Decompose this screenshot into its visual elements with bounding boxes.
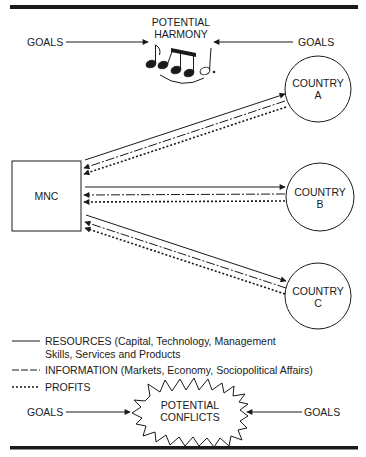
profits-flow-b-to-mnc [84, 201, 285, 202]
music-notes-icon [145, 45, 215, 83]
legend-resources-line2: Skills, Services and Products [45, 348, 276, 361]
goals-right-conflicts-label: GOALS [304, 406, 340, 418]
conflicts-title-line2: CONFLICTS [150, 411, 230, 423]
country-c-line2: C [288, 297, 348, 309]
country-a-line1: COUNTRY [288, 77, 348, 89]
country-c-line1: COUNTRY [288, 285, 348, 297]
profits-flow-a-to-mnc [84, 107, 286, 174]
goals-left-conflicts-label: GOALS [27, 406, 63, 418]
goals-right-harmony-label: GOALS [298, 36, 334, 48]
resources-flow-mnc-to-a [85, 94, 285, 160]
country-b-line1: COUNTRY [290, 186, 350, 198]
legend-information: INFORMATION (Markets, Economy, Sociopoli… [45, 364, 313, 377]
harmony-title-line2: HARMONY [148, 28, 214, 40]
conflicts-title-line1: POTENTIAL [150, 399, 230, 411]
profits-flow-c-to-mnc [85, 228, 285, 294]
legend-resources-line1: RESOURCES (Capital, Technology, Manageme… [45, 335, 276, 348]
country-a-label: COUNTRY A [288, 77, 348, 101]
harmony-title-line1: POTENTIAL [148, 16, 214, 28]
resources-flow-mnc-to-c [86, 215, 286, 281]
conflicts-title: POTENTIAL CONFLICTS [150, 399, 230, 423]
harmony-title: POTENTIAL HARMONY [148, 16, 214, 40]
country-c-label: COUNTRY C [288, 285, 348, 309]
top-rule [10, 5, 358, 9]
information-flow-c-to-mnc [85, 222, 286, 288]
information-flow-a-to-mnc [84, 101, 285, 168]
goals-left-harmony-label: GOALS [27, 36, 63, 48]
legend-profits: PROFITS [45, 381, 91, 394]
country-b-line2: B [290, 198, 350, 210]
country-b-label: COUNTRY B [290, 186, 350, 210]
mnc-label: MNC [12, 190, 81, 202]
country-a-line2: A [288, 89, 348, 101]
information-flow-b-to-mnc [84, 194, 285, 195]
bottom-rule [10, 446, 358, 450]
legend-resources: RESOURCES (Capital, Technology, Manageme… [45, 335, 276, 361]
